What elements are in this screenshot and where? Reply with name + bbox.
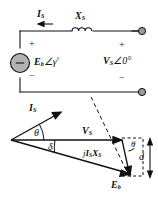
phasor-emf-label: Eb [111, 180, 121, 191]
figure-vector-graphics [0, 0, 158, 199]
phasor-voltage-label: VS [82, 126, 92, 137]
dimension-arrow-d [148, 139, 153, 178]
circuit-current-label: IS [37, 9, 44, 20]
angle-arc-delta [54, 140, 55, 153]
terminal-voltage-label: VS∠0° [103, 56, 131, 67]
terminal-minus-sign: − [119, 73, 125, 83]
current-arrow-is [38, 22, 53, 27]
angle-label-theta-origin: θ [34, 128, 39, 138]
source-plus-sign: + [29, 39, 35, 49]
phasor-vs [11, 137, 122, 144]
terminal-plus-sign: + [119, 40, 125, 50]
figure-synchronous-machine: IS XS + − Eb∠γ° + − VS∠0° IS VS Eb jISXS… [0, 0, 158, 199]
source-minus-sign: − [29, 71, 35, 81]
dimension-label-d: d [139, 152, 144, 162]
inductor-coil-icon [72, 28, 92, 31]
phasor-current-label: IS [29, 103, 36, 114]
source-emf-label: Eb∠γ° [34, 57, 59, 68]
voltage-source-symbol [11, 54, 30, 73]
phasor-jisxs [122, 140, 131, 176]
angle-label-theta-corner: θ [131, 140, 135, 149]
terminal-nodes [138, 27, 145, 95]
phasor-eb [11, 140, 130, 176]
phasor-reactance-drop-label: jISXS [83, 149, 101, 159]
angle-arc-theta-origin [40, 125, 45, 141]
angle-label-delta: δ [48, 142, 53, 152]
circuit-reactance-label: XS [75, 11, 85, 22]
